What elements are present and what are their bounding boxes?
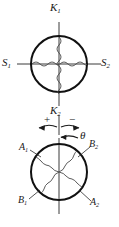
label-a1: A1 [19,142,28,153]
label-s2: S2 [101,57,110,70]
theta-label: θ [80,130,85,141]
wavy-radial-a1 [36,157,59,172]
label-b1: B1 [18,195,27,206]
label-k1: K1 [50,2,61,15]
theta-arrowhead [61,135,67,140]
wavy-radial-b1 [41,172,59,193]
label-a2: A2 [90,197,99,208]
plus-sign-label: + [44,114,50,125]
lower-diagram-group [29,138,91,214]
label-s1: S1 [2,57,11,70]
minus-sign-label: − [69,114,75,125]
label-k2: K2 [50,105,61,118]
figure-container: K1 K2 S1 S2 + − θ A1 B2 B1 A2 [0,0,119,227]
wavy-radial-a2 [59,172,82,187]
upper-diagram-group [17,22,101,106]
leader-b1 [29,190,40,199]
label-b2: B2 [89,139,98,150]
wavy-radial-b2 [59,151,77,172]
